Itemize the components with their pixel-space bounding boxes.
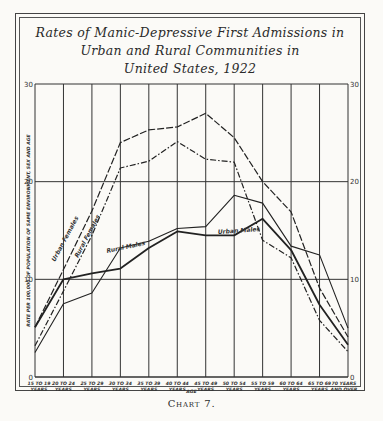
x-tick-label: 50 TO 54 xyxy=(223,381,246,386)
x-tick-label-sub: YEARS xyxy=(112,387,130,392)
x-tick-label-sub: YEARS xyxy=(226,387,244,392)
x-tick-label: 70 YEARS xyxy=(332,381,358,386)
y-tick-label-right: 30 xyxy=(350,81,359,89)
y-axis-label: RATE PER 100,000 OF POPULATION OF SAME E… xyxy=(26,133,31,326)
x-axis-label: AGE xyxy=(185,389,197,394)
x-tick-label-sub: YEARS xyxy=(169,387,187,392)
x-tick-label-sub: YEARS xyxy=(311,387,329,392)
line-chart: 0010102020303015 TO 19YEARS20 TO 24YEARS… xyxy=(0,0,383,421)
x-tick-label: 25 TO 29 xyxy=(80,381,103,386)
x-tick-label-sub: AND OVER xyxy=(330,387,358,392)
y-tick-label-left: 30 xyxy=(24,81,33,89)
x-tick-label-sub: YEARS xyxy=(31,387,49,392)
x-tick-label: 65 TO 69 xyxy=(308,381,331,386)
x-tick-label-sub: YEARS xyxy=(83,387,101,392)
series-line-rural-males xyxy=(35,195,348,352)
x-tick-label: 55 TO 59 xyxy=(251,381,274,386)
series-label: Rural Males xyxy=(106,239,146,254)
x-tick-label-sub: YEARS xyxy=(254,387,272,392)
x-tick-label-sub: YEARS xyxy=(140,387,158,392)
x-tick-label: 45 TO 49 xyxy=(194,381,217,386)
x-tick-label: 60 TO 64 xyxy=(280,381,303,386)
x-tick-label: 40 TO 44 xyxy=(166,381,189,386)
x-tick-label: 15 TO 19 xyxy=(27,381,50,386)
series-line-urban-females xyxy=(35,113,348,337)
chart-caption: Chart 7. xyxy=(0,398,383,409)
y-tick-label-right: 20 xyxy=(350,178,359,186)
x-tick-label: 30 TO 34 xyxy=(109,381,132,386)
series-label: Urban Males xyxy=(218,225,261,235)
x-tick-label-sub: YEARS xyxy=(55,387,73,392)
x-tick-label-sub: YEARS xyxy=(283,387,301,392)
x-tick-label: 35 TO 39 xyxy=(137,381,160,386)
y-tick-label-right: 10 xyxy=(350,276,359,284)
x-tick-label-sub: YEARS xyxy=(197,387,215,392)
x-tick-label: 20 TO 24 xyxy=(52,381,75,386)
